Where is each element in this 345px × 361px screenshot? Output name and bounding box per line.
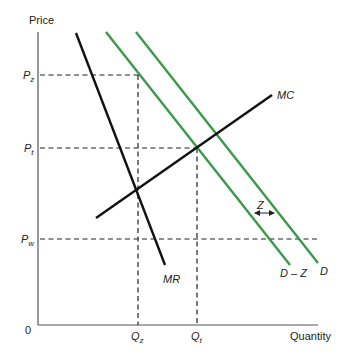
z-label: Z bbox=[256, 199, 265, 211]
mc-label: MC bbox=[277, 89, 294, 101]
x-axis-label: Quantity bbox=[290, 330, 331, 342]
origin-label: 0 bbox=[25, 324, 31, 336]
pz-label: Pz bbox=[23, 69, 34, 84]
tariff-quota-diagram: Price Quantity 0 Pz Pt Pw Qz Qt MC MR D … bbox=[0, 0, 345, 361]
mr-label: MR bbox=[163, 273, 180, 285]
d-minus-z-label: D – Z bbox=[280, 267, 308, 279]
y-axis-label: Price bbox=[29, 14, 54, 26]
pt-label: Pt bbox=[24, 142, 34, 157]
qz-label: Qz bbox=[131, 330, 144, 345]
qt-label: Qt bbox=[191, 330, 203, 345]
mr-curve bbox=[76, 33, 165, 265]
pw-label: Pw bbox=[21, 233, 35, 248]
d-label: D bbox=[320, 265, 328, 277]
